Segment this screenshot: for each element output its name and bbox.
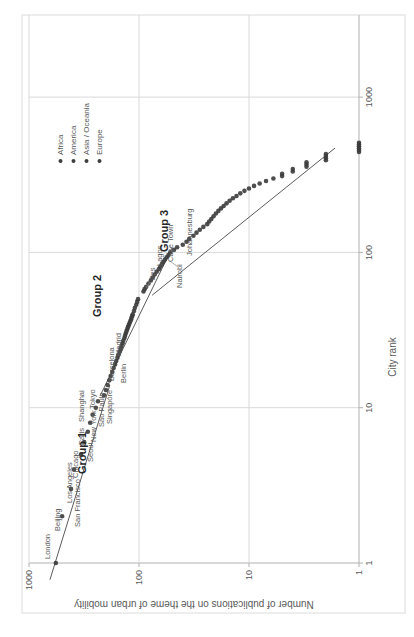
data-point (252, 184, 257, 189)
x-tick-label: 1 (364, 560, 374, 565)
x-tick-label: 1000 (364, 87, 374, 107)
data-point (324, 152, 329, 157)
data-point (357, 140, 362, 145)
city-label: San Francisco (73, 479, 82, 527)
data-point (257, 181, 262, 186)
legend-marker-europe (98, 159, 102, 163)
city-label: Tokyo (88, 389, 97, 409)
city-label: Shanghai (77, 390, 86, 422)
city-label: Beijing (53, 508, 62, 531)
y-tick-label: 10 (244, 570, 254, 580)
legend-label: Europe (95, 129, 104, 155)
data-point (290, 167, 295, 172)
legend-label: Asia / Oceania (82, 102, 91, 155)
legend-marker-africa (59, 159, 63, 163)
legend-label: America (69, 125, 78, 155)
data-point (271, 176, 276, 181)
data-point (175, 245, 180, 250)
data-point (105, 383, 110, 388)
data-point (201, 225, 206, 230)
rank-size-scatter-chart: 11010010001101001000City rankNumber of p… (0, 0, 414, 637)
data-point (136, 297, 141, 302)
x-tick-label: 100 (364, 245, 374, 260)
rotated-chart-stage: 11010010001101001000City rankNumber of p… (0, 0, 414, 637)
data-point (280, 171, 285, 176)
city-label: Johannesburg (185, 208, 194, 256)
data-point (242, 189, 247, 194)
y-axis-title: Number of publications on the theme of u… (74, 599, 314, 610)
data-point (247, 186, 252, 191)
data-point (54, 561, 59, 566)
city-label: Berlin (119, 364, 128, 383)
legend-marker-america (72, 159, 76, 163)
legend-marker-asia-oceania (85, 159, 89, 163)
x-axis-title: City rank (387, 336, 398, 376)
data-point (304, 160, 309, 165)
y-tick-label: 100 (134, 570, 144, 585)
data-point (264, 179, 269, 184)
legend-label: Africa (56, 134, 65, 155)
city-label: Singapore (105, 390, 114, 424)
city-label: Nairobi (175, 264, 184, 288)
city-label: Madrid (114, 333, 123, 356)
y-tick-label: 1 (354, 570, 364, 575)
city-label: London (43, 534, 52, 559)
group-annotation: Group 3 (158, 210, 170, 252)
scanned-chart-page: 11010010001101001000City rankNumber of p… (0, 0, 414, 637)
group-annotation: Group 2 (91, 275, 103, 317)
data-point (238, 191, 243, 196)
city-label: Fes (148, 267, 157, 280)
y-tick-label: 1000 (24, 570, 34, 590)
x-tick-label: 10 (364, 403, 374, 413)
group-annotation: Group 1 (76, 432, 88, 474)
data-point (234, 194, 239, 199)
